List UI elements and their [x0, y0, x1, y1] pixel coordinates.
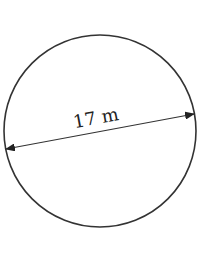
- circle-diagram: 17 m: [0, 0, 201, 262]
- diameter-label: 17 m: [71, 103, 120, 132]
